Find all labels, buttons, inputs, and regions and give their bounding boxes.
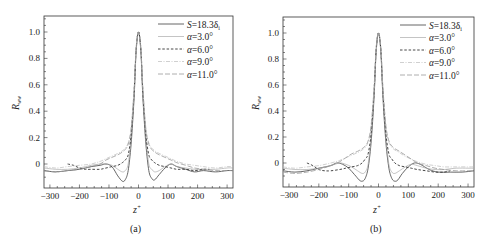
x-tick-label: −100 <box>100 191 119 201</box>
y-tick-label: 0.4 <box>268 106 280 116</box>
x-tick-label: 100 <box>161 191 175 201</box>
x-tick-label: 0 <box>376 190 381 200</box>
x-tick-label: −200 <box>70 191 89 201</box>
x-tick-label: 300 <box>220 191 234 201</box>
y-tick-label: 0.2 <box>268 132 279 142</box>
y-tick-label: 1.0 <box>268 28 280 38</box>
x-axis-label-b: z+ <box>372 204 381 215</box>
legend-label: α=6.0° <box>187 45 213 55</box>
y-tick-label: 1.0 <box>29 27 41 37</box>
x-tick-label: −100 <box>339 190 358 200</box>
x-tick-label: 200 <box>191 191 205 201</box>
legend-label: α=9.0° <box>187 57 213 67</box>
x-tick-label: −200 <box>310 190 329 200</box>
y-tick-label: 0.6 <box>268 80 280 90</box>
legend-label: α=3.0° <box>187 32 213 42</box>
x-tick-label: −300 <box>41 191 60 201</box>
legend-a: S=18.3δiα=3.0°α=6.0°α=9.0°α=11.0° <box>158 20 220 80</box>
figure: 00.20.40.60.81.0 −300−200−1000100200300 … <box>0 0 487 252</box>
panel-label-a: (a) <box>130 223 141 235</box>
legend-label: S=18.3δi <box>429 21 462 32</box>
y-axis-label-a: Rww <box>10 96 22 111</box>
panel-a: 00.20.40.60.81.0 −300−200−1000100200300 … <box>10 16 234 235</box>
legend-label: α=9.0° <box>429 58 455 68</box>
y-tick-label: 0.6 <box>29 80 41 90</box>
figure-svg: 00.20.40.60.81.0 −300−200−1000100200300 … <box>0 0 487 252</box>
x-axis-ticks-b: −300−200−1000100200300 <box>280 184 476 201</box>
y-tick-label: 0 <box>36 159 41 169</box>
y-tick-label: 0.8 <box>29 53 41 63</box>
y-tick-label: 0.8 <box>268 54 280 64</box>
y-tick-label: 0 <box>275 158 280 168</box>
panel-b: 00.20.40.60.81.0 −300−200−1000100200300 … <box>250 17 475 235</box>
y-tick-label: 0.4 <box>29 106 41 116</box>
legend-label: α=11.0° <box>429 71 460 81</box>
legend-b: S=18.3δiα=3.0°α=6.0°α=9.0°α=11.0° <box>400 21 462 81</box>
x-tick-label: 0 <box>136 191 141 201</box>
legend-label: S=18.3δi <box>187 20 220 31</box>
y-tick-label: 0.2 <box>29 133 40 143</box>
x-tick-label: 300 <box>461 190 475 200</box>
x-tick-label: 200 <box>431 190 445 200</box>
y-axis-ticks-a: 00.20.40.60.81.0 <box>29 19 48 177</box>
legend-label: α=6.0° <box>429 46 455 56</box>
legend-label: α=11.0° <box>187 70 218 80</box>
legend-label: α=3.0° <box>429 33 455 43</box>
x-tick-label: −300 <box>280 190 299 200</box>
x-axis-ticks-a: −300−200−1000100200300 <box>41 185 235 202</box>
y-axis-ticks-b: 00.20.40.60.81.0 <box>268 20 287 176</box>
x-tick-label: 100 <box>402 190 416 200</box>
x-axis-label-a: z+ <box>132 204 141 215</box>
y-axis-label-b: Rww <box>250 96 262 111</box>
panel-label-b: (b) <box>370 223 382 235</box>
